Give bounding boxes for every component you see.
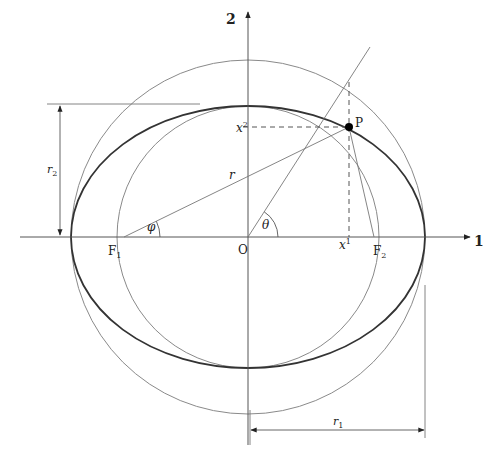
r2-label: r2	[47, 163, 57, 178]
p-to-f2-line	[349, 127, 374, 237]
phi-arc	[156, 221, 160, 237]
focus-left-label: F1	[108, 244, 121, 260]
x1-label: x1	[339, 237, 351, 252]
point-p-label: P	[355, 116, 363, 130]
x-axis-label: 1	[474, 233, 484, 249]
point-p	[345, 123, 353, 131]
theta-label: θ	[262, 218, 270, 232]
x2-label: x2	[236, 120, 248, 135]
ellipse-diagram: 2 1 O F1 F2 P φ θ r r2 r1 x2 x1	[0, 0, 497, 462]
r1-label: r1	[333, 415, 343, 430]
r-line	[124, 127, 349, 237]
y-axis-label: 2	[226, 11, 236, 27]
origin-label: O	[238, 243, 248, 257]
r-label: r	[229, 168, 236, 182]
focus-right-label: F2	[373, 244, 386, 260]
phi-label: φ	[147, 220, 156, 234]
theta-line	[248, 47, 370, 237]
